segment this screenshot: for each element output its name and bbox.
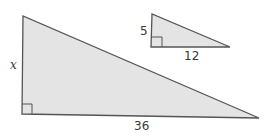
small-vertical-leg-label: 5: [140, 24, 148, 38]
small-triangle-shape: [151, 14, 230, 47]
small-triangle: 5 12: [140, 14, 230, 63]
large-triangle: x 36: [10, 16, 259, 133]
small-horizontal-leg-label: 12: [184, 49, 199, 63]
large-vertical-leg-label: x: [10, 58, 17, 72]
large-horizontal-leg-label: 36: [134, 119, 149, 133]
similar-triangles-diagram: x 36 5 12: [0, 0, 276, 137]
